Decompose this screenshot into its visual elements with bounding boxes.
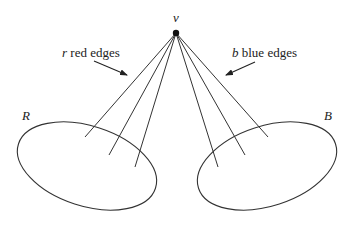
blue-edges-text: blue edges	[239, 45, 297, 60]
red-edges-annotation: r red edges	[62, 45, 120, 60]
red-arrow-icon	[94, 61, 127, 75]
blue-edge	[176, 33, 218, 167]
red-edges-text: red edges	[67, 45, 120, 60]
set-b-label: B	[324, 108, 332, 123]
set-r-ellipse	[6, 106, 168, 227]
blue-arrow-icon	[226, 62, 255, 75]
red-edge	[135, 33, 176, 167]
set-r-label: R	[21, 108, 30, 123]
set-b-ellipse	[186, 106, 348, 227]
vertex-v-dot	[173, 30, 179, 36]
vertex-label: v	[173, 10, 179, 25]
diagram-canvas: v r red edges b blue edges R B	[0, 0, 356, 230]
blue-edges-annotation: b blue edges	[232, 45, 297, 60]
